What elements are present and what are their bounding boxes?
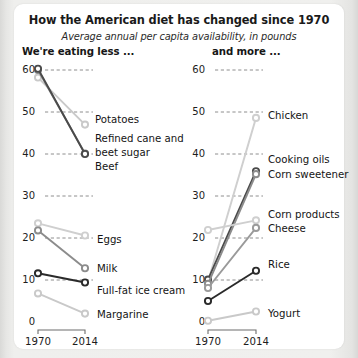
series-potatoes [35,74,88,127]
series-label: Eggs [97,234,122,245]
x-tick-label: 1970 [195,336,221,347]
y-tick-label: 0 [29,316,35,327]
series-line [38,69,85,154]
right-y-tick-labels: 0102030405060 [192,64,205,327]
data-point-marker [82,311,88,317]
data-point-marker [35,290,41,296]
series-label: beet sugar [95,147,151,158]
data-point-marker [205,227,211,233]
data-point-marker [35,66,41,72]
series-label: Rice [268,259,290,270]
y-tick-label: 20 [192,232,205,243]
series-label: Refined cane and [95,133,184,144]
left-gridlines [45,70,93,280]
y-tick-label: 60 [192,64,205,75]
y-tick-label: 30 [22,190,35,201]
data-point-marker [82,122,88,128]
slope-chart-svg: 0102030405060 0102030405060 19702014 197… [0,0,358,358]
series-label: Chicken [268,110,308,121]
data-point-marker [253,217,259,223]
data-point-marker [205,318,211,324]
series-label: Margarine [97,309,149,320]
left-x-tick-labels: 19702014 [25,336,98,347]
series-label: Cooking oils [268,154,330,165]
right-series-labels: ChickenCooking oilsCorn sweetenerCorn pr… [267,110,349,319]
series-label: Corn products [268,209,340,220]
series-label: Cheese [268,223,306,234]
y-tick-label: 40 [22,148,35,159]
data-point-marker [253,308,259,314]
chart-root: How the American diet has changed since … [0,0,358,358]
series-line [38,223,85,235]
y-tick-label: 20 [22,232,35,243]
series-yogurt [205,308,259,323]
y-tick-label: 50 [192,106,205,117]
series-eggs [35,220,88,238]
series-line [38,78,85,125]
data-point-marker [35,270,41,276]
series-label: Potatoes [95,114,139,125]
data-point-marker [82,151,88,157]
y-tick-label: 60 [22,64,35,75]
left-series-lines [35,66,88,317]
data-point-marker [82,232,88,238]
data-point-marker [253,268,259,274]
x-axis-rule [38,330,85,334]
series-margarine [35,290,88,316]
series-label: Corn sweetener [268,169,349,180]
series-label: Milk [97,263,117,274]
series-full-fat-ice-cream [35,270,88,285]
data-point-marker [82,279,88,285]
series-line [208,312,256,321]
data-point-marker [253,225,259,231]
data-point-marker [35,220,41,226]
series-line [208,271,256,301]
series-label: Full-fat ice cream [97,285,185,296]
x-axis-rule [208,330,256,334]
data-point-marker [253,171,259,177]
data-point-marker [253,115,259,121]
left-x-axis [38,330,85,334]
data-point-marker [205,285,211,291]
series-beef [35,66,88,157]
right-x-tick-labels: 19702014 [195,336,269,347]
y-tick-label: 10 [22,274,35,285]
left-series-labels: PotatoesRefined cane andbeet sugarBeefEg… [95,114,185,320]
y-tick-label: 40 [192,148,205,159]
x-tick-label: 2014 [72,336,98,347]
x-tick-label: 1970 [25,336,51,347]
series-label: Yogurt [267,308,300,319]
series-cheese [205,225,259,291]
data-point-marker [205,298,211,304]
y-tick-label: 10 [192,274,205,285]
series-line [38,230,85,268]
right-series-lines [205,115,259,324]
right-x-axis [208,330,256,334]
series-line [38,293,85,313]
data-point-marker [35,227,41,233]
series-line [38,273,85,282]
left-y-tick-labels: 0102030405060 [22,64,35,327]
data-point-marker [82,265,88,271]
y-tick-label: 50 [22,106,35,117]
series-label: Beef [95,161,119,172]
y-tick-label: 30 [192,190,205,201]
x-tick-label: 2014 [243,336,269,347]
